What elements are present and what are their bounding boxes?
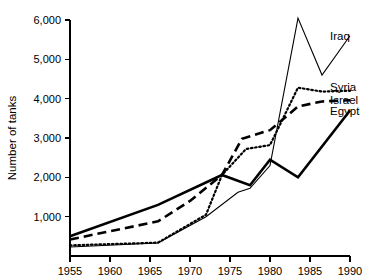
chart-axis-titles: Number of tanks <box>6 96 18 181</box>
series-label-israel: Israel <box>330 94 358 106</box>
x-tick-label-1985: 1985 <box>298 265 322 277</box>
y-tick-label-3000: 3,000 <box>33 132 61 144</box>
series-label-egypt: Egypt <box>330 105 360 117</box>
y-tick-label-5000: 5,000 <box>33 53 61 65</box>
series-label-iraq: Iraq <box>330 30 350 42</box>
x-tick-label-1965: 1965 <box>138 265 162 277</box>
series-line-israel <box>70 100 350 239</box>
x-tick-label-1975: 1975 <box>218 265 242 277</box>
x-tick-label-1980: 1980 <box>258 265 282 277</box>
series-label-syria: Syria <box>330 81 357 93</box>
series-line-iraq <box>70 18 350 247</box>
x-tick-label-1990: 1990 <box>338 265 362 277</box>
x-tick-label-1960: 1960 <box>98 265 122 277</box>
chart-plot-area: 1,0002,0003,0004,0005,0006,0001955196019… <box>0 0 375 280</box>
chart-tick-marks <box>65 20 350 262</box>
y-axis-title: Number of tanks <box>6 96 18 181</box>
y-tick-label-2000: 2,000 <box>33 171 61 183</box>
y-tick-label-4000: 4,000 <box>33 93 61 105</box>
series-line-egypt <box>70 110 350 236</box>
y-tick-label-1000: 1,000 <box>33 211 61 223</box>
x-tick-label-1970: 1970 <box>178 265 202 277</box>
tank-inventory-line-chart: 1,0002,0003,0004,0005,0006,0001955196019… <box>0 0 375 280</box>
y-tick-label-6000: 6,000 <box>33 14 61 26</box>
x-tick-label-1955: 1955 <box>58 265 82 277</box>
chart-series-lines <box>70 18 350 247</box>
